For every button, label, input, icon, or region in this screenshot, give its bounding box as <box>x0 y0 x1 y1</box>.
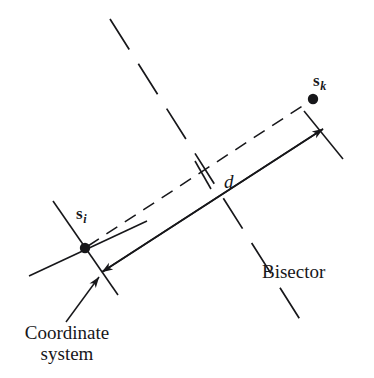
coordinate-system-label-line1: Coordinate <box>6 323 128 344</box>
coordinate-system-leader-arrow <box>66 277 99 322</box>
distance-measure-line <box>102 129 323 272</box>
coordinate-system-label: Coordinate system <box>6 323 128 364</box>
site-k-point <box>308 94 318 104</box>
bisector-label: Bisector <box>262 262 325 283</box>
coordinate-system-label-line2: system <box>6 344 128 365</box>
site-i-subscript: i <box>83 212 86 226</box>
site-connector-dashed-line <box>88 101 310 246</box>
site-i-point <box>80 243 90 253</box>
site-k-symbol: s <box>313 71 320 90</box>
site-k-label: sk <box>313 72 326 93</box>
site-i-label: si <box>76 205 86 226</box>
coordinate-axis-site-k <box>304 111 343 159</box>
bisector-diagram: si sk d Bisector Coordinate system <box>0 0 374 378</box>
site-k-subscript: k <box>320 79 326 93</box>
site-i-symbol: s <box>76 204 83 223</box>
distance-label: d <box>224 172 234 193</box>
